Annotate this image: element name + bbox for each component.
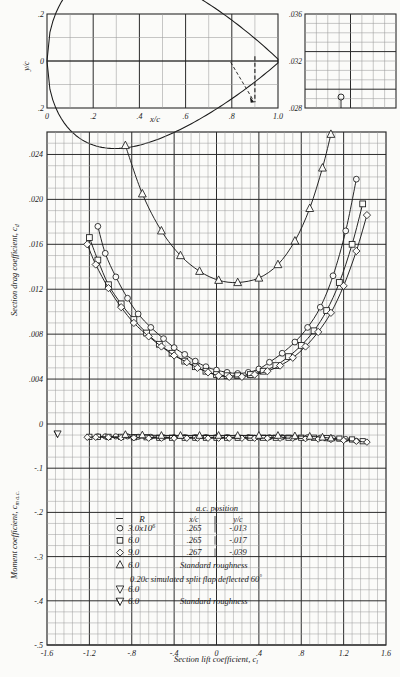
data-point-marker-triangle-up [327, 130, 335, 137]
data-point-marker-circle [343, 228, 349, 234]
data-point-marker-square [86, 235, 92, 241]
data-point-marker-circle [317, 304, 323, 310]
data-point-marker-triangle-up [196, 267, 204, 274]
data-point-marker-circle [161, 336, 167, 342]
right-inset-grid [305, 14, 396, 108]
right-inset-tick-labels: .036.032.028 [289, 10, 302, 113]
legend-row: 3.0x106.265-.013 [117, 523, 247, 533]
lift-axis-title: Section lift coefficient, cl [174, 654, 258, 665]
drag-tick-label: .008 [29, 330, 43, 339]
lift-tick-label: .4 [256, 649, 262, 658]
airfoil-xtick: .8 [229, 112, 235, 121]
legend-roughness-note: Standard roughness [180, 596, 248, 606]
data-point-marker-triangle-down-flag [54, 431, 61, 438]
drag-tick-label: .020 [29, 195, 43, 204]
airfoil-ytick: 0 [40, 57, 44, 66]
data-point-marker-circle [279, 350, 285, 356]
drag-tick-label: .004 [29, 375, 43, 384]
legend-reynolds-value: 6.0 [128, 560, 140, 570]
data-point-marker-circle [125, 295, 131, 301]
airfoil-ytick: .2 [38, 104, 44, 113]
data-point-marker-triangle-down-flag [116, 598, 124, 605]
data-point-marker-circle [102, 250, 108, 256]
data-point-marker-triangle-up [121, 141, 129, 148]
data-point-marker-circle [353, 176, 359, 182]
moment-axis-tick-labels: -.1-.2-.3-.4-.5 [34, 464, 43, 650]
data-point-marker-circle [182, 351, 188, 357]
drag-axis-tick-labels: .024.020.016.012.008.0040 [29, 150, 43, 429]
legend-ac-xc: .265 [187, 523, 202, 533]
data-point-marker-triangle-up [116, 561, 124, 568]
airfoil-ytick: .2 [38, 10, 44, 19]
drag-series-3 [121, 130, 334, 286]
right-inset-tick: .036 [289, 10, 302, 19]
airfoil-xtick: .6 [183, 112, 189, 121]
data-point-marker-triangle-up [138, 189, 146, 196]
airfoil-xtick: .2 [90, 112, 96, 121]
data-point-marker-diamond [117, 549, 124, 556]
legend-roughness-note: Standard roughness [180, 560, 248, 570]
drag-tick-label: .016 [29, 240, 43, 249]
lift-tick-label: 1.2 [339, 649, 349, 658]
legend-row: 6.0Standard roughness [116, 596, 248, 606]
legend-reynolds-value: 6.0 [128, 596, 140, 606]
figure-page: .20.20.2.4.6.81.0 y/c x/c .036.032.028 .… [0, 0, 400, 677]
airfoil-xlabel: x/c [149, 114, 160, 124]
moment-tick-label: -.1 [34, 464, 43, 473]
drag-tick-label: .024 [29, 150, 43, 159]
right-inset-tick: .028 [289, 104, 302, 113]
lift-tick-label: 1.6 [381, 649, 391, 658]
legend-ac-xc: .265 [187, 535, 202, 545]
data-point-marker-circle [305, 325, 311, 331]
moment-tick-label: -.3 [34, 553, 43, 562]
airfoil-xtick: 1.0 [273, 112, 283, 121]
drag-series-1 [86, 201, 365, 379]
data-point-marker-square [360, 201, 366, 207]
moment-axis-title: Moment coefficient, cm a.c. [9, 491, 20, 580]
airfoil-xtick: 0 [45, 112, 49, 121]
data-point-marker-circle [171, 345, 177, 351]
data-point-marker-triangle-up [255, 274, 263, 281]
legend-reynolds-value: 3.0x106 [127, 523, 155, 533]
legend-reynolds-value: 6.0 [128, 535, 140, 545]
legend-ac-yc: -.017 [229, 535, 247, 545]
data-point-marker-triangle-up [319, 164, 327, 171]
right-inset: .036.032.028 [289, 10, 396, 113]
airfoil-inset-tick-labels: .20.20.2.4.6.81.0 [38, 10, 283, 121]
data-point-marker-circle [330, 273, 336, 279]
airfoil-ylabel: y/c [22, 61, 31, 72]
lift-tick-label: -1.2 [83, 649, 96, 658]
data-point-marker-triangle-up [157, 226, 165, 233]
moment-coefficient-curves [54, 431, 370, 446]
data-point-marker-circle [113, 274, 119, 280]
lift-tick-label: .8 [298, 649, 304, 658]
data-point-marker-square [117, 538, 123, 544]
airfoil-inset: .20.20.2.4.6.81.0 y/c x/c [22, 0, 283, 148]
data-point-marker-diamond [363, 211, 370, 218]
data-point-marker-square [349, 241, 355, 247]
legend-ac-yc: -.013 [229, 523, 247, 533]
data-point-marker-circle [267, 359, 273, 365]
lift-tick-label: -.8 [127, 649, 136, 658]
data-point-marker-triangle-up [306, 204, 314, 211]
drag-tick-label: 0 [39, 420, 43, 429]
data-point-marker-circle [117, 525, 123, 531]
legend-ac-xc: .267 [187, 547, 203, 557]
legend-row: 6.0 [116, 584, 140, 594]
data-point-marker-circle [95, 223, 101, 229]
drag-axis-title: Section drag coefficient, cd [9, 223, 20, 316]
drag-tick-label: .012 [29, 285, 43, 294]
legend-flap-note: 0.20c simulated split flap deflected 60° [130, 574, 262, 584]
legend-reynolds-value: 6.0 [128, 584, 140, 594]
legend-row: 6.0Standard roughness [116, 560, 248, 570]
drag-polar-curves [84, 130, 371, 381]
right-inset-tick: .032 [289, 57, 302, 66]
data-point-marker-circle [292, 339, 298, 345]
legend-block: Ra.c. positionx/cy/c3.0x106.265-.0136.0.… [116, 503, 262, 606]
legend-ac-yc: -.039 [229, 547, 247, 557]
legend-header-ac-position: a.c. position [196, 503, 238, 513]
data-point-marker-triangle-up [291, 237, 299, 244]
moment-tick-label: -.2 [34, 508, 43, 517]
legend-reynolds-value: 9.0 [128, 547, 140, 557]
lift-tick-label: -1.6 [41, 649, 54, 658]
